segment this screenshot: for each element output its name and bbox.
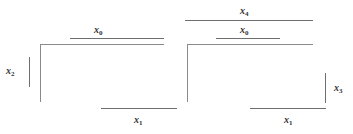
right-x4-span-rule bbox=[185, 20, 313, 21]
left-x0-span-rule bbox=[70, 38, 164, 39]
left-kmap bbox=[40, 44, 164, 102]
left-x2-label: x2 bbox=[6, 66, 15, 76]
right-kmap bbox=[187, 44, 313, 102]
karnaugh-map-figure: x0 x2 x1 x4 x0 x3 x1 bbox=[0, 0, 353, 134]
right-x4-label: x4 bbox=[240, 6, 249, 16]
left-x1-label: x1 bbox=[134, 115, 143, 125]
right-x3-bracket bbox=[325, 73, 326, 103]
right-x3-label: x3 bbox=[334, 83, 343, 93]
left-x0-label: x0 bbox=[94, 25, 103, 35]
right-x0-span-rule bbox=[216, 38, 280, 39]
right-x1-span-rule bbox=[250, 108, 326, 109]
right-x0-label: x0 bbox=[240, 25, 249, 35]
left-x1-span-rule bbox=[101, 108, 177, 109]
left-x2-bracket bbox=[29, 57, 30, 87]
right-x1-label: x1 bbox=[284, 115, 293, 125]
